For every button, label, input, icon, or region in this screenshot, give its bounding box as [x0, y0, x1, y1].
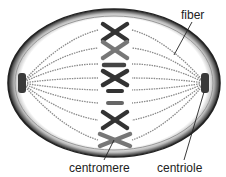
centriole-right [201, 73, 209, 93]
mitosis-diagram: fiber centromere centriole [0, 0, 226, 177]
fiber-label: fiber [181, 8, 204, 22]
centriole-left [18, 73, 26, 93]
centromere-label: centromere [69, 161, 130, 175]
centriole-label: centriole [157, 161, 203, 175]
